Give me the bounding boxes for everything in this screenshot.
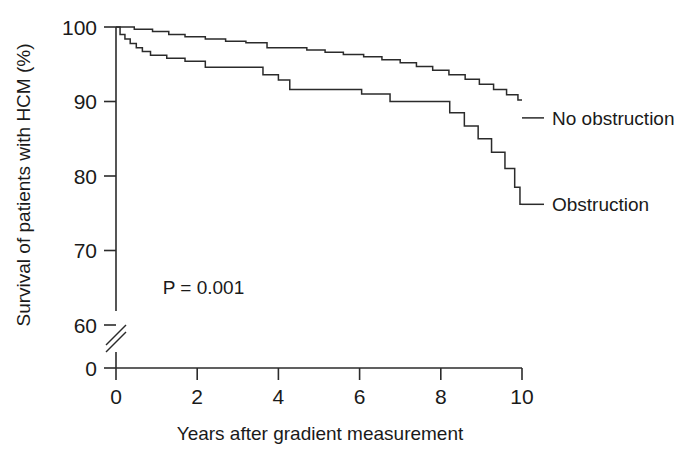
y-tick-label-70: 70 — [74, 239, 97, 262]
x-axis-title: Years after gradient measurement — [177, 423, 464, 444]
p-value-annotation: P = 0.001 — [163, 277, 245, 298]
x-tick-label-6: 6 — [354, 385, 366, 408]
y-axis-title: Survival of patients with HCM (%) — [13, 44, 34, 327]
y-tick-label-90: 90 — [74, 90, 97, 113]
x-axis-ticks — [116, 368, 522, 380]
x-tick-label-4: 4 — [273, 385, 285, 408]
y-tick-label-60: 60 — [74, 314, 97, 337]
survival-curve-obstruction — [116, 27, 522, 204]
series-label-obstruction: Obstruction — [552, 194, 649, 215]
x-tick-label-2: 2 — [191, 385, 203, 408]
y-tick-label-100: 100 — [62, 16, 97, 39]
y-tick-label-80: 80 — [74, 165, 97, 188]
x-tick-label-8: 8 — [435, 385, 447, 408]
y-axis-break-icon — [106, 325, 126, 352]
kaplan-meier-plot: Survival of patients with HCM (%) Years … — [0, 0, 686, 456]
y-tick-label-0: 0 — [85, 357, 97, 380]
series-label-no-obstruction: No obstruction — [552, 108, 675, 129]
y-axis-ticks — [104, 27, 116, 368]
x-tick-label-0: 0 — [110, 385, 122, 408]
x-tick-label-10: 10 — [510, 385, 533, 408]
survival-chart-figure: Survival of patients with HCM (%) Years … — [0, 0, 686, 456]
